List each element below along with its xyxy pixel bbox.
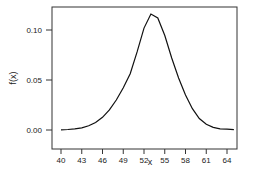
x-tick-label: 46 [98,156,107,165]
x-tick-label: 58 [181,156,190,165]
x-tick-label: 61 [202,156,211,165]
density-curve [61,14,234,130]
x-axis: 404346495255586164 [57,149,232,165]
x-tick-label: 40 [57,156,66,165]
y-tick-label: 0.05 [26,76,42,85]
x-tick-label: 64 [223,156,232,165]
x-tick-label: 55 [160,156,169,165]
density-chart: 0.000.050.10 404346495255586164 f(x) x [0,0,266,172]
y-tick-label: 0.00 [26,126,42,135]
x-axis-label: x [148,157,153,167]
y-axis: 0.000.050.10 [26,26,52,135]
x-tick-label: 49 [119,156,128,165]
y-axis-label: f(x) [8,72,18,85]
y-tick-label: 0.10 [26,26,42,35]
x-tick-label: 43 [77,156,86,165]
